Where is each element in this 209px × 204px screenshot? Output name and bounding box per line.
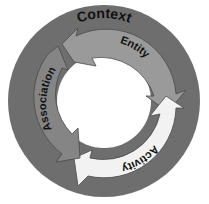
context-cycle-diagram: Context Entity Activity Association — [0, 0, 209, 204]
